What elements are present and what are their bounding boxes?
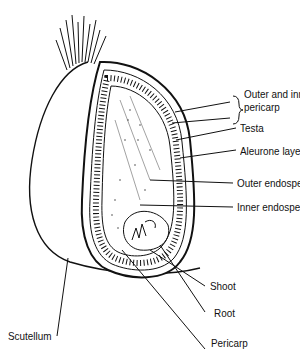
label-pericarp: Pericarp — [211, 337, 248, 349]
label-shoot: Shoot — [210, 280, 236, 292]
brush-hairs — [56, 15, 106, 70]
label-testa: Testa — [240, 122, 264, 134]
label-outer-inner-pericarp-line2: pericarp — [244, 101, 280, 113]
label-aleurone-layer: Aleurone layer — [240, 145, 300, 157]
wheat-grain-diagram: Outer and inner pericarp Testa Aleurone … — [0, 0, 300, 359]
label-root: Root — [214, 307, 235, 319]
label-outer-inner-pericarp-line1: Outer and inner — [244, 88, 300, 100]
label-inner-endosperm: Inner endosperm — [237, 201, 300, 213]
label-scutellum: Scutellum — [8, 330, 51, 342]
label-outer-endosperm: Outer endosperm — [237, 177, 300, 189]
